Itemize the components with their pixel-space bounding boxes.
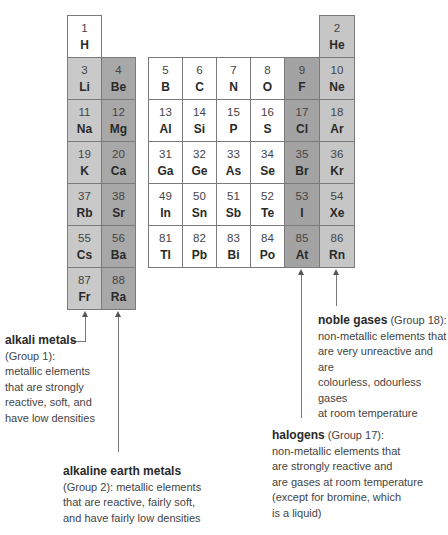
atomic-number: 83 bbox=[217, 232, 250, 244]
element-symbol: Pb bbox=[183, 248, 216, 262]
noble-gases-group: (Group 18): bbox=[387, 314, 446, 326]
alkali-line: (Group 1): bbox=[5, 349, 155, 365]
element-cell-xe: 54Xe bbox=[319, 183, 355, 226]
element-cell-se: 34Se bbox=[250, 141, 285, 184]
element-cell-bi: 83Bi bbox=[216, 225, 251, 268]
atomic-number: 50 bbox=[183, 190, 216, 202]
element-cell-kr: 36Kr bbox=[319, 141, 355, 184]
element-symbol: C bbox=[183, 80, 216, 94]
element-symbol: Al bbox=[149, 122, 182, 136]
atomic-number: 38 bbox=[102, 190, 135, 202]
element-cell-sn: 50Sn bbox=[182, 183, 217, 226]
element-cell-po: 84Po bbox=[250, 225, 285, 268]
element-cell-he: 2He bbox=[319, 15, 355, 58]
element-cell-h: 1H bbox=[67, 15, 102, 58]
atomic-number: 6 bbox=[183, 64, 216, 76]
element-cell-o: 8O bbox=[250, 57, 285, 100]
element-symbol: Bi bbox=[217, 248, 250, 262]
atomic-number: 7 bbox=[217, 64, 250, 76]
atomic-number: 14 bbox=[183, 106, 216, 118]
element-symbol: Na bbox=[68, 122, 101, 136]
atomic-number: 35 bbox=[285, 148, 319, 160]
atomic-number: 86 bbox=[320, 232, 354, 244]
element-cell-be: 4Be bbox=[101, 57, 136, 100]
element-cell-li: 3Li bbox=[67, 57, 102, 100]
element-cell-c: 6C bbox=[182, 57, 217, 100]
atomic-number: 11 bbox=[68, 106, 101, 118]
element-cell-tl: 81Tl bbox=[148, 225, 183, 268]
atomic-number: 18 bbox=[320, 106, 354, 118]
element-cell-pb: 82Pb bbox=[182, 225, 217, 268]
element-symbol: Rn bbox=[320, 248, 354, 262]
element-symbol: Ga bbox=[149, 164, 182, 178]
halogens-line: (except for bromine, which bbox=[272, 490, 442, 506]
element-cell-s: 16S bbox=[250, 99, 285, 142]
element-cell-si: 14Si bbox=[182, 99, 217, 142]
element-symbol: Ca bbox=[102, 164, 135, 178]
atomic-number: 19 bbox=[68, 148, 101, 160]
element-symbol: In bbox=[149, 206, 182, 220]
atomic-number: 84 bbox=[251, 232, 284, 244]
element-symbol: Br bbox=[285, 164, 319, 178]
noble-gases-label: noble gases (Group 18): non-metallic ele… bbox=[318, 313, 448, 422]
element-cell-fr: 87Fr bbox=[67, 267, 102, 310]
element-symbol: Ra bbox=[102, 290, 135, 304]
element-symbol: He bbox=[320, 38, 354, 52]
element-cell-br: 35Br bbox=[284, 141, 320, 184]
element-symbol: Ge bbox=[183, 164, 216, 178]
element-cell-ge: 32Ge bbox=[182, 141, 217, 184]
halogens-line: are strongly reactive and bbox=[272, 459, 442, 475]
atomic-number: 10 bbox=[320, 64, 354, 76]
element-cell-b: 5B bbox=[148, 57, 183, 100]
element-cell-ar: 18Ar bbox=[319, 99, 355, 142]
element-symbol: Cl bbox=[285, 122, 319, 136]
atomic-number: 53 bbox=[285, 190, 319, 202]
element-symbol: F bbox=[285, 80, 319, 94]
element-symbol: Rb bbox=[68, 206, 101, 220]
element-cell-cl: 17Cl bbox=[284, 99, 320, 142]
element-cell-p: 15P bbox=[216, 99, 251, 142]
noble-line: non-metallic elements that bbox=[318, 329, 448, 345]
element-cell-as: 33As bbox=[216, 141, 251, 184]
element-symbol: P bbox=[217, 122, 250, 136]
atomic-number: 55 bbox=[68, 232, 101, 244]
alkali-metals-title: alkali metals bbox=[5, 333, 76, 347]
noble-gases-title: noble gases bbox=[318, 313, 387, 327]
element-cell-n: 7N bbox=[216, 57, 251, 100]
atomic-number: 8 bbox=[251, 64, 284, 76]
atomic-number: 16 bbox=[251, 106, 284, 118]
element-symbol: Xe bbox=[320, 206, 354, 220]
element-cell-k: 19K bbox=[67, 141, 102, 184]
alkali-line: reactive, soft, and bbox=[5, 395, 155, 411]
atomic-number: 87 bbox=[68, 274, 101, 286]
element-cell-ba: 56Ba bbox=[101, 225, 136, 268]
element-symbol: B bbox=[149, 80, 182, 94]
element-symbol: I bbox=[285, 206, 319, 220]
atomic-number: 33 bbox=[217, 148, 250, 160]
element-symbol: Se bbox=[251, 164, 284, 178]
atomic-number: 37 bbox=[68, 190, 101, 202]
atomic-number: 49 bbox=[149, 190, 182, 202]
alkaline-earth-line: (Group 2): metallic elements bbox=[63, 480, 263, 496]
halogens-group: (Group 17): bbox=[325, 429, 384, 441]
atomic-number: 20 bbox=[102, 148, 135, 160]
element-symbol: Fr bbox=[68, 290, 101, 304]
alkali-line: metallic elements bbox=[5, 364, 155, 380]
element-cell-at: 85At bbox=[284, 225, 320, 268]
element-symbol: Sn bbox=[183, 206, 216, 220]
element-symbol: Sr bbox=[102, 206, 135, 220]
element-cell-rn: 86Rn bbox=[319, 225, 355, 268]
atomic-number: 1 bbox=[68, 22, 101, 34]
element-symbol: Be bbox=[102, 80, 135, 94]
atomic-number: 4 bbox=[102, 64, 135, 76]
halogens-label: halogens (Group 17): non-metallic elemen… bbox=[272, 428, 442, 521]
element-symbol: At bbox=[285, 248, 319, 262]
atomic-number: 12 bbox=[102, 106, 135, 118]
element-symbol: Cs bbox=[68, 248, 101, 262]
element-cell-te: 52Te bbox=[250, 183, 285, 226]
element-cell-sr: 38Sr bbox=[101, 183, 136, 226]
element-cell-ga: 31Ga bbox=[148, 141, 183, 184]
noble-line: at room temperature bbox=[318, 406, 448, 422]
element-cell-ca: 20Ca bbox=[101, 141, 136, 184]
element-symbol: K bbox=[68, 164, 101, 178]
